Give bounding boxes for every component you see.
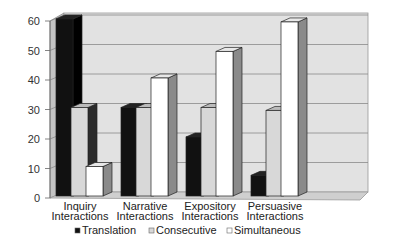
bar-simultaneous-3 — [216, 47, 242, 196]
bar-chart: 0102030405060 InquiryInteractionsNarrati… — [0, 0, 403, 244]
bar-simultaneous-4 — [281, 18, 307, 196]
y-axis-ticks: 0102030405060 — [28, 15, 50, 204]
legend-label-simultaneous: Simultaneous — [234, 224, 301, 236]
x-category-label: Interactions — [247, 210, 304, 222]
legend-label-translation: Translation — [82, 224, 136, 236]
x-category-label: Interactions — [182, 210, 239, 222]
bar-simultaneous-1 — [86, 163, 112, 197]
x-axis-category-labels: InquiryInteractionsNarrativeInteractions… — [52, 200, 304, 222]
y-tick-label: 30 — [28, 104, 40, 116]
bar-simultaneous-2 — [151, 74, 177, 196]
legend-label-consecutive: Consecutive — [156, 224, 217, 236]
y-tick-label: 40 — [28, 74, 40, 86]
legend-swatch-translation — [75, 228, 80, 233]
x-category-label: Interactions — [117, 210, 174, 222]
legend: TranslationConsecutiveSimultaneous — [75, 224, 301, 236]
y-tick-label: 10 — [28, 163, 40, 175]
y-tick-label: 0 — [34, 192, 40, 204]
y-tick-label: 50 — [28, 45, 40, 57]
y-tick-label: 20 — [28, 133, 40, 145]
legend-swatch-consecutive — [149, 228, 154, 233]
y-tick-label: 60 — [28, 15, 40, 27]
x-category-label: Interactions — [52, 210, 109, 222]
legend-swatch-simultaneous — [227, 228, 232, 233]
